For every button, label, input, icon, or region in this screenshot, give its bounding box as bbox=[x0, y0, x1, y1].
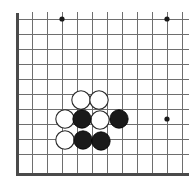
white-stone-body bbox=[90, 91, 108, 109]
black-stone-body bbox=[110, 110, 128, 128]
black-stone-body bbox=[73, 110, 91, 128]
white-stone[interactable] bbox=[90, 91, 108, 109]
black-stone[interactable] bbox=[74, 131, 92, 149]
black-stone[interactable] bbox=[92, 132, 110, 150]
white-stone[interactable] bbox=[72, 91, 90, 109]
white-stone-body bbox=[56, 131, 74, 149]
black-stone[interactable] bbox=[110, 110, 128, 128]
go-board-canvas[interactable] bbox=[0, 0, 189, 187]
go-board-figure bbox=[0, 0, 189, 187]
black-stone-body bbox=[74, 131, 92, 149]
white-stone-body bbox=[72, 91, 90, 109]
star-point-upper-right bbox=[164, 16, 169, 21]
white-stone-body bbox=[56, 110, 74, 128]
black-stone-body bbox=[92, 132, 110, 150]
white-stone[interactable] bbox=[56, 110, 74, 128]
star-point-upper-left bbox=[59, 16, 64, 21]
white-stone[interactable] bbox=[91, 111, 109, 129]
white-stone-body bbox=[91, 111, 109, 129]
white-stone[interactable] bbox=[56, 131, 74, 149]
star-point-right bbox=[164, 116, 169, 121]
black-stone[interactable] bbox=[73, 110, 91, 128]
